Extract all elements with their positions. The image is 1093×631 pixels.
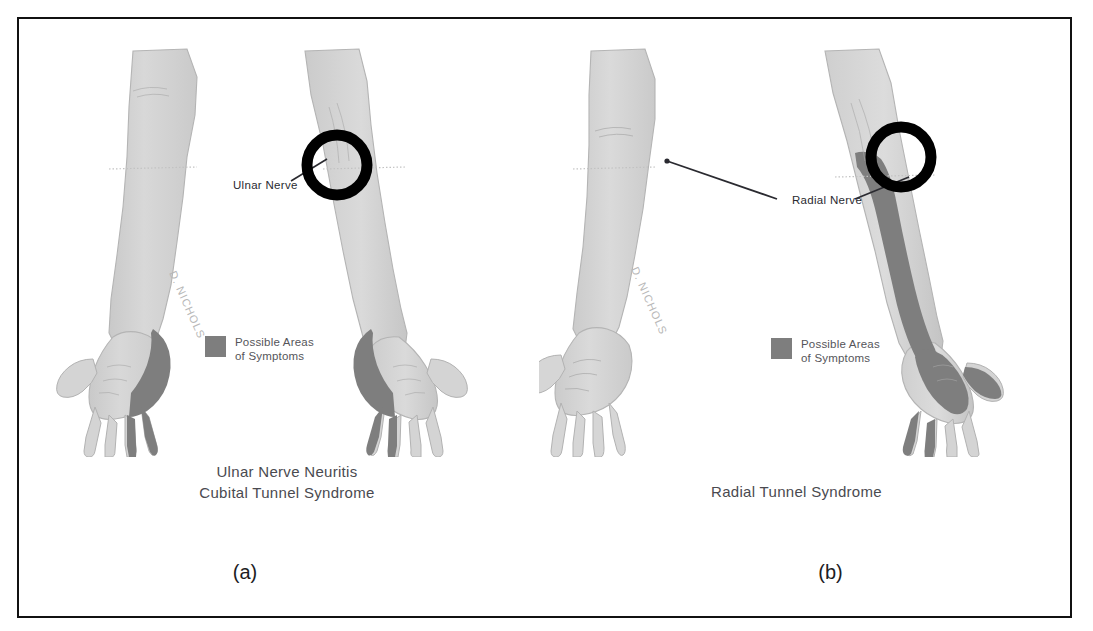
artist-signature: D. NICHOLS	[167, 269, 208, 341]
panel-b-right-arm	[825, 49, 1003, 457]
panel-b-left-arm: D. NICHOLS	[539, 49, 670, 457]
panel-b-caption: Radial Tunnel Syndrome	[539, 481, 1054, 502]
panel-a-illustration: D. NICHOLS	[37, 37, 537, 457]
panel-a: D. NICHOLS	[37, 37, 537, 597]
left-forearm-shape	[573, 49, 655, 351]
panel-a-nerve-label: Ulnar Nerve	[233, 179, 298, 191]
panel-b-legend-label: Possible Areas of Symptoms	[801, 337, 880, 365]
panel-b-svg: D. NICHOLS	[539, 37, 1054, 457]
panel-b-leader-dot-left	[664, 158, 669, 163]
panel-a-left-arm: D. NICHOLS	[57, 49, 208, 457]
panel-a-legend: Possible Areas of Symptoms	[205, 335, 314, 363]
panel-b-legend-swatch	[771, 338, 792, 359]
figure-border: D. NICHOLS	[17, 17, 1072, 618]
artist-signature: D. NICHOLS	[629, 265, 670, 337]
panel-a-right-arm	[305, 49, 467, 457]
panel-b-nerve-label: Radial Nerve	[792, 194, 862, 206]
left-palm-shape	[555, 328, 632, 416]
panel-a-legend-label: Possible Areas of Symptoms	[235, 335, 314, 363]
figure-root: D. NICHOLS	[0, 0, 1093, 631]
panel-b-legend: Possible Areas of Symptoms	[771, 337, 880, 365]
panel-a-legend-swatch	[205, 336, 226, 357]
right-forearm-shape	[305, 49, 407, 357]
panel-b-leader-line-left	[667, 161, 777, 199]
panel-a-caption: Ulnar Nerve Neuritis Cubital Tunnel Synd…	[37, 461, 537, 503]
panel-a-svg: D. NICHOLS	[37, 37, 537, 457]
panel-a-label: (a)	[0, 561, 495, 584]
panel-b-label: (b)	[573, 561, 1088, 584]
panel-b: D. NICHOLS	[539, 37, 1054, 597]
panel-b-illustration: D. NICHOLS	[539, 37, 1054, 457]
